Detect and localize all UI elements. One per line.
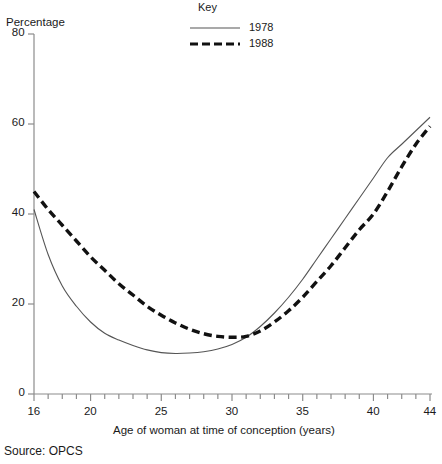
- y-tick-label: 60: [12, 116, 25, 128]
- legend-sample-lines: [190, 28, 240, 44]
- x-tick-label: 20: [84, 405, 97, 417]
- chart-canvas: [0, 0, 442, 464]
- legend-title: Key: [198, 1, 217, 13]
- legend-label-1978: 1978: [249, 21, 273, 33]
- x-tick-label: 44: [423, 405, 436, 417]
- legend-label-1988: 1988: [249, 37, 273, 49]
- x-tick-label: 25: [155, 405, 168, 417]
- y-axis-ticks: [28, 34, 34, 394]
- y-tick-label: 0: [18, 386, 24, 398]
- source-note: Source: OPCS: [4, 444, 83, 458]
- x-tick-label: 35: [296, 405, 309, 417]
- chart-figure: Percentage 020406080 16202530354044 Key …: [0, 0, 442, 464]
- x-axis-title: Age of woman at time of conception (year…: [113, 424, 335, 436]
- x-tick-label: 40: [367, 405, 380, 417]
- series-line-1988: [34, 126, 430, 337]
- x-axis-ticks: [34, 394, 430, 401]
- series-line-1978: [34, 117, 430, 353]
- y-tick-label: 40: [12, 206, 25, 218]
- y-tick-label: 80: [12, 26, 25, 38]
- y-tick-label: 20: [12, 296, 25, 308]
- data-series-group: [34, 117, 430, 353]
- x-tick-label: 16: [27, 405, 40, 417]
- x-tick-label: 30: [225, 405, 238, 417]
